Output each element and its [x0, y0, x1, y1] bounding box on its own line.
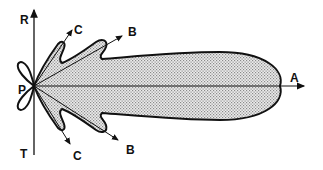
label-p: P	[18, 83, 26, 97]
label-c-upper: C	[74, 23, 83, 37]
label-c-lower: C	[73, 149, 82, 163]
label-b-lower: B	[126, 143, 135, 157]
label-r: R	[20, 13, 29, 27]
radiation-pattern-diagram: R T P A C B C B	[0, 0, 323, 170]
label-a: A	[290, 71, 299, 85]
label-b-upper: B	[128, 25, 137, 39]
label-t: T	[20, 147, 28, 161]
